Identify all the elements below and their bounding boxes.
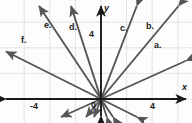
line-label-b: b. [146,22,154,31]
x-axis-label: x [182,83,187,92]
x-tick-label-neg4: -4 [30,102,38,111]
x-tick-label-4: 4 [150,102,155,111]
line-label-f: f. [21,36,27,45]
origin-label: 0 [91,101,96,110]
line-label-a: a. [154,41,162,50]
figure-canvas: f. e. d. c. b. a. x y 0 -4 4 4 [0,0,192,123]
line-label-e: e. [44,21,52,30]
line-label-c: c. [120,24,128,33]
y-axis-label: y [104,4,109,13]
y-tick-label-4: 4 [89,30,94,39]
line-label-d: d. [69,23,77,32]
